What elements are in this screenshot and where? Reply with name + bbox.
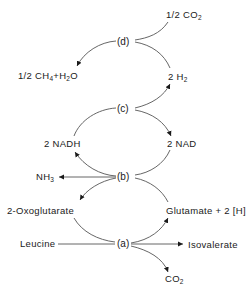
subscript: 2 xyxy=(184,76,188,83)
label-text: 2 H xyxy=(168,71,184,82)
label-nh3: NH3 xyxy=(36,171,54,182)
reaction-node-a: (a) xyxy=(116,238,130,249)
label-oxoglutarate: 2-Oxoglutarate xyxy=(7,205,74,216)
label-text: 1/2 CH xyxy=(18,70,49,81)
label-text: +H xyxy=(53,70,66,81)
label-isovalerate: Isovalerate xyxy=(188,239,238,250)
label-co2: CO2 xyxy=(165,273,184,284)
label-text: CO xyxy=(165,273,180,284)
subscript: 3 xyxy=(50,176,54,183)
label-ch4-h2o: 1/2 CH4+H2O xyxy=(18,70,78,81)
label-text: 1/2 CO xyxy=(166,9,198,20)
label-half-co2: 1/2 CO2 xyxy=(166,9,202,20)
label-nadh: 2 NADH xyxy=(44,138,81,149)
subscript: 2 xyxy=(180,278,184,285)
label-h2: 2 H2 xyxy=(168,71,188,82)
subscript: 2 xyxy=(198,14,202,21)
label-glutamate: Glutamate + 2 [H] xyxy=(166,205,246,216)
label-text: NH xyxy=(36,171,50,182)
reaction-node-d: (d) xyxy=(116,36,130,47)
reaction-node-b: (b) xyxy=(116,171,130,182)
reaction-node-c: (c) xyxy=(116,103,130,114)
label-text: O xyxy=(70,70,78,81)
label-nad: 2 NAD xyxy=(167,138,196,149)
label-leucine: Leucine xyxy=(20,238,55,249)
